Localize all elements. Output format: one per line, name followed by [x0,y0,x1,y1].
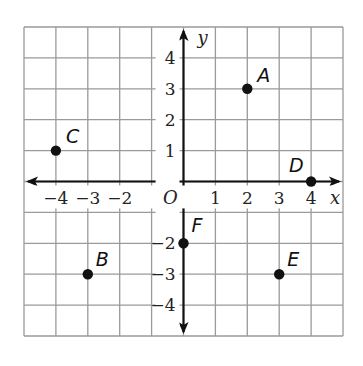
point-a [242,84,252,94]
coordinate-plane: −4−3−212344321−2−3−4Oxy ABCDEF [0,0,363,366]
x-tick-label: −2 [107,188,132,208]
point-f [178,238,188,248]
point-label-b: B [96,248,109,270]
point-label-d: D [289,154,304,176]
x-axis-label: x [330,187,340,208]
axes [26,29,341,334]
point-d [306,176,316,186]
point-label-f: F [192,214,204,236]
point-c [51,145,61,155]
y-tick-label: 3 [165,79,176,99]
x-tick-label: 1 [210,188,221,208]
y-tick-label: 2 [165,110,176,130]
origin-label: O [163,187,178,208]
point-label-a: A [255,64,270,86]
x-tick-label: −4 [43,188,68,208]
y-axis-label: y [197,27,209,48]
y-tick-label: 1 [165,141,176,161]
y-tick-label: −2 [150,233,175,253]
point-label-e: E [287,248,299,270]
y-tick-label: −3 [150,264,175,284]
x-tick-label: 2 [242,188,253,208]
point-e [274,269,284,279]
x-tick-label: 3 [274,188,285,208]
point-label-c: C [66,125,80,147]
y-tick-label: −4 [150,295,175,315]
x-tick-label: 4 [306,188,317,208]
x-tick-label: −3 [75,188,100,208]
y-tick-label: 4 [165,48,176,68]
point-b [83,269,93,279]
